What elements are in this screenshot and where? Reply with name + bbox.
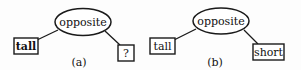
node-tall-label: tall [153,40,171,53]
panel-a: tall opposite ? (a) [14,9,134,70]
edge-opposite-short [244,30,258,44]
node-short-label: short [254,46,284,59]
caption-b: (b) [207,56,223,69]
edge-tall-opposite [37,30,58,40]
edge-opposite-unknown [105,31,120,45]
node-opposite-label: opposite [59,16,106,29]
edge-tall-opposite [174,29,196,40]
node-unknown-label: ? [123,47,129,60]
panel-b: tall opposite short (b) [150,8,284,69]
diagram-canvas: tall opposite ? (a) tall opposite short … [0,0,301,70]
node-opposite-label: opposite [197,15,244,28]
caption-a: (a) [71,56,86,69]
node-tall-label: tall [16,40,37,53]
